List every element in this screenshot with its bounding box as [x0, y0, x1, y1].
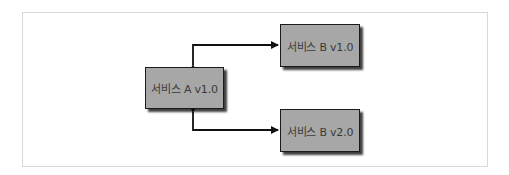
edge-a-to-b-v2	[193, 112, 278, 130]
edges-layer	[0, 0, 509, 175]
edge-a-to-b-v1	[193, 45, 278, 65]
node-label: 서비스 B v2.0	[287, 123, 354, 139]
node-service-b-v2: 서비스 B v2.0	[280, 109, 360, 152]
node-service-a-v1: 서비스 A v1.0	[145, 67, 224, 109]
node-label: 서비스 A v1.0	[151, 80, 218, 96]
node-service-b-v1: 서비스 B v1.0	[280, 24, 360, 67]
node-label: 서비스 B v1.0	[287, 38, 354, 54]
